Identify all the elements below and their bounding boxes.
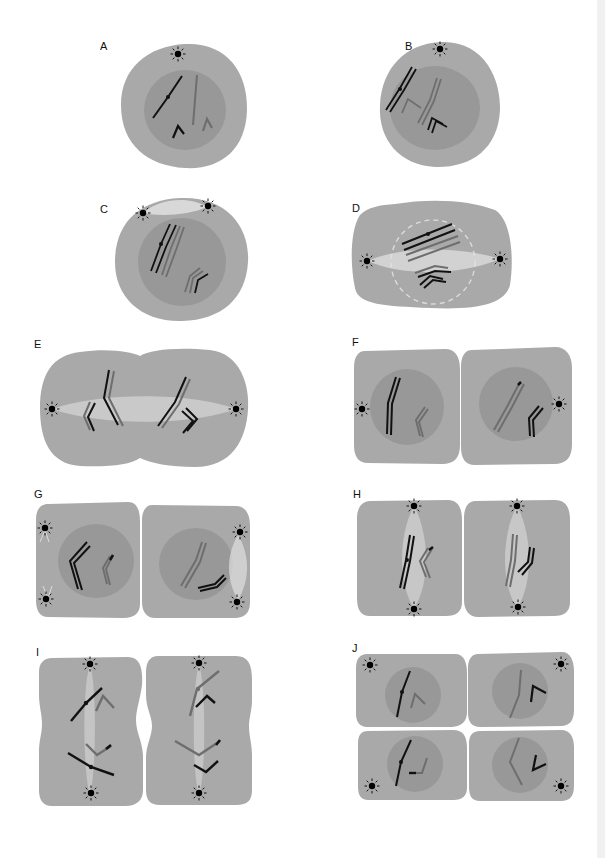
cell-diagram <box>0 0 300 180</box>
centrosome-icon <box>511 600 526 615</box>
panel-a: A <box>0 0 300 180</box>
cell-diagram <box>0 640 300 840</box>
panel-h: H <box>330 480 605 640</box>
centrosome-icon <box>84 786 99 801</box>
centrosome-icon <box>554 779 569 794</box>
panel-g: G <box>0 480 300 640</box>
cell-diagram <box>0 330 300 480</box>
centrosome-icon <box>407 499 422 514</box>
panel-e: E <box>0 330 300 480</box>
cell-diagram <box>330 480 605 640</box>
centrosome-icon <box>45 402 60 417</box>
centrosome-icon <box>83 657 98 672</box>
centrosome-icon <box>136 206 151 221</box>
centrosome-icon <box>230 595 245 610</box>
centrosome-icon <box>171 47 186 62</box>
panel-j: J <box>330 640 605 840</box>
centrosome-icon <box>433 42 448 57</box>
centrosome-icon <box>493 252 508 267</box>
centrosome-icon <box>363 658 378 673</box>
cell-diagram <box>0 480 300 640</box>
centrosome-icon <box>510 499 525 514</box>
centrosome-icon <box>407 602 422 617</box>
centrosome-icon <box>192 656 207 671</box>
cell-diagram <box>330 330 605 480</box>
panel-f: F <box>330 330 605 480</box>
panel-c: C <box>0 180 300 330</box>
panel-d: D <box>300 180 605 330</box>
centrosome-icon <box>201 199 216 214</box>
centrosome-icon <box>552 397 567 412</box>
panel-b: B <box>300 0 605 180</box>
centrosome-icon <box>39 592 54 607</box>
panel-i: I <box>0 640 300 840</box>
cell-diagram <box>300 0 605 180</box>
cell-diagram <box>330 640 605 840</box>
centrosome-icon <box>365 779 380 794</box>
cell-diagram <box>0 180 300 330</box>
centrosome-icon <box>229 402 244 417</box>
centrosome-icon <box>554 657 569 672</box>
cell-diagram <box>300 180 605 330</box>
centrosome-icon <box>355 402 370 417</box>
centrosome-icon <box>360 254 375 269</box>
centrosome-icon <box>38 521 53 536</box>
centrosome-icon <box>192 786 207 801</box>
centrosome-icon <box>233 525 248 540</box>
